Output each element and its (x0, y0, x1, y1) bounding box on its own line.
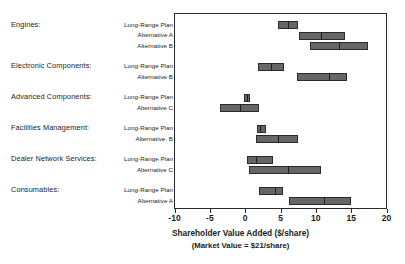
range-bar (259, 187, 284, 195)
bar-midline (247, 95, 248, 101)
bar-midline (329, 74, 330, 80)
chart-container: Engines:Electronic Components:Advanced C… (0, 0, 405, 264)
x-axis-tick-label: 20 (382, 213, 391, 223)
x-axis-subtitle: (Market Value = $21/share) (0, 241, 405, 250)
x-axis-title: Shareholder Value Added ($/share) (0, 228, 405, 238)
scenario-label: Long-Range Plan (124, 124, 173, 131)
scenario-label: Long-Range Plan (124, 155, 173, 162)
scenario-label: Long-Range Plan (124, 62, 173, 69)
scenario-label: Alternative A (138, 197, 173, 204)
bar-midline (339, 43, 340, 49)
range-bar (258, 63, 284, 71)
bar-midline (240, 105, 241, 111)
range-bar (220, 104, 259, 112)
category-label: Electronic Components: (11, 61, 92, 70)
range-bar (249, 166, 322, 174)
bar-midline (324, 198, 325, 204)
range-bar (310, 42, 368, 50)
category-label: Engines: (11, 20, 41, 29)
bar-midline (260, 126, 261, 132)
bar-midline (288, 167, 289, 173)
category-label: Advanced Components: (11, 92, 92, 101)
x-axis-tick-label: 10 (311, 213, 320, 223)
range-bar (289, 197, 351, 205)
range-bar (257, 125, 266, 133)
bar-midline (321, 33, 322, 39)
x-axis-tick-label: 0 (243, 213, 248, 223)
bar-midline (271, 64, 272, 70)
range-bar (244, 94, 250, 102)
scenario-label: Alternative C (137, 166, 173, 173)
scenario-label: Alternative A (138, 31, 173, 38)
category-label: Consumables: (11, 185, 59, 194)
scenario-label: Alternative B (137, 42, 173, 49)
x-axis-tick-label: 15 (346, 213, 355, 223)
category-label: Dealer Network Services: (11, 154, 97, 163)
x-axis-tick-label: -5 (206, 213, 214, 223)
bar-midline (256, 157, 257, 163)
scenario-label: Alternative C (137, 104, 173, 111)
bar-midline (275, 188, 276, 194)
range-bar (278, 21, 298, 29)
range-bar (299, 32, 345, 40)
scenario-label: Long-Range Plan (124, 21, 173, 28)
scenario-label: Long-Range Plan (124, 186, 173, 193)
x-axis-tick-label: 5 (278, 213, 283, 223)
x-axis-tick-label: -10 (168, 213, 180, 223)
scenario-label: Alternative B (137, 73, 173, 80)
range-bar (247, 156, 274, 164)
bar-midline (278, 136, 279, 142)
range-bar (297, 73, 347, 81)
scenario-label: Long-Range Plan (124, 93, 173, 100)
bar-midline (288, 22, 289, 28)
range-bar (256, 135, 298, 143)
category-label: Facilities Management: (11, 123, 89, 132)
scenario-label: Alternative. B (136, 135, 174, 142)
